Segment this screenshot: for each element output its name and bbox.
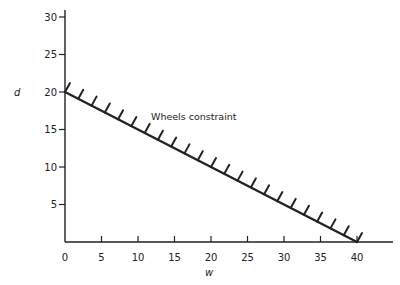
x-tick-label: 0 xyxy=(62,252,68,263)
hatch-mark xyxy=(238,172,243,181)
x-axis-label: w xyxy=(205,267,214,278)
y-tick-label: 30 xyxy=(44,12,57,23)
hatch-mark xyxy=(158,131,163,140)
hatch-mark xyxy=(330,219,335,228)
hatch-mark xyxy=(211,158,216,167)
hatch-mark xyxy=(317,213,322,222)
hatch-mark xyxy=(224,165,229,174)
hatch-mark xyxy=(92,97,97,106)
hatch-mark xyxy=(105,103,110,112)
x-tick-label: 20 xyxy=(205,252,218,263)
y-tick-label: 20 xyxy=(44,87,57,98)
x-tick-label: 15 xyxy=(168,252,181,263)
x-tick-label: 35 xyxy=(314,252,327,263)
hatch-mark xyxy=(264,185,269,194)
hatch-mark xyxy=(198,151,203,160)
y-tick-label: 15 xyxy=(44,124,57,135)
hatch-mark xyxy=(78,90,83,99)
y-tick-label: 5 xyxy=(51,199,57,210)
hatch-mark xyxy=(118,110,123,119)
constraint-chart: 51015202530 0510152025303540 d w Wheels … xyxy=(0,0,400,285)
x-tick-label: 25 xyxy=(241,252,254,263)
x-axis: 0510152025303540 xyxy=(62,236,393,263)
y-axis: 51015202530 xyxy=(44,10,65,242)
constraint-line xyxy=(65,83,362,242)
hatch-mark xyxy=(344,226,349,235)
y-axis-label: d xyxy=(14,87,21,98)
x-tick-label: 40 xyxy=(351,252,364,263)
x-tick-label: 10 xyxy=(132,252,145,263)
hatch-mark xyxy=(184,144,189,153)
x-tick-label: 30 xyxy=(278,252,291,263)
y-tick-label: 25 xyxy=(44,49,57,60)
hatch-mark xyxy=(291,199,296,208)
hatch-mark xyxy=(251,178,256,187)
hatch-mark xyxy=(131,117,136,126)
hatch-mark xyxy=(304,206,309,215)
hatch-mark xyxy=(65,83,70,92)
hatch-mark xyxy=(277,192,282,201)
x-tick-label: 5 xyxy=(98,252,104,263)
hatch-mark xyxy=(145,124,150,133)
y-tick-label: 10 xyxy=(44,162,57,173)
hatch-mark xyxy=(357,233,362,242)
wheels-constraint-label: Wheels constraint xyxy=(151,111,237,122)
hatch-mark xyxy=(171,138,176,147)
